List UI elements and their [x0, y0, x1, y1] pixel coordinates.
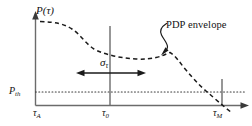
- tau-a-subscript: A: [37, 112, 41, 119]
- tau-m-label: τM: [213, 108, 222, 118]
- power-threshold-label: Pth: [9, 86, 20, 96]
- tau-0-label: τ0: [102, 108, 109, 118]
- sigma-tau-arrowhead-left: [76, 70, 85, 76]
- x-axis-arrowhead: [241, 102, 250, 109]
- pdp-envelope-annotation: PDP envelope: [166, 20, 227, 31]
- y-axis-label: P(τ): [36, 5, 54, 16]
- pdp-envelope-figure: P(τ) Pth τA τ0 τM στ PDP envelope: [0, 0, 252, 126]
- sigma-tau-label: στ: [100, 57, 108, 68]
- sigma-tau-arrow: [76, 70, 146, 76]
- power-threshold-subscript: th: [15, 90, 20, 97]
- sigma-tau-arrowhead-right: [138, 70, 147, 76]
- tau-a-label: τA: [33, 108, 41, 118]
- sigma-tau-subscript: τ: [105, 61, 108, 70]
- pdp-envelope-curve: [40, 22, 232, 114]
- tau-0-subscript: 0: [106, 112, 109, 119]
- tau-m-subscript: M: [217, 112, 223, 119]
